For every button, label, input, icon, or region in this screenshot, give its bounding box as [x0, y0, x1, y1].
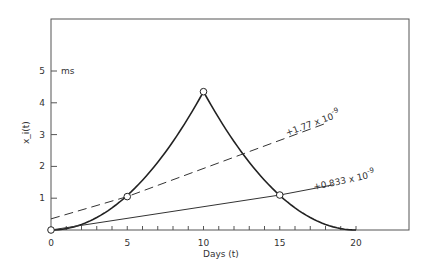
x-tick-label: 10: [198, 238, 210, 248]
dashed-line: [51, 123, 326, 218]
y-tick-label: 1: [39, 193, 45, 203]
y-tick-label: 2: [39, 161, 45, 171]
y-tick-label: 5: [39, 66, 45, 76]
svg-text:+1.77 x 10-9: +1.77 x 10-9: [283, 106, 341, 138]
marker-circle: [48, 227, 55, 234]
x-tick-label: 0: [48, 238, 54, 248]
marker-circle: [124, 193, 131, 200]
marker-circle: [200, 88, 207, 95]
x-tick-label: 20: [350, 238, 362, 248]
y-tick-label: 3: [39, 130, 45, 140]
y-axis-label: x_i(t): [21, 121, 31, 144]
x-axis-label: Days (t): [203, 249, 239, 259]
chart: 05101520 12345 ms Days (t) x_i(t) +1.77 …: [0, 0, 429, 270]
y-unit-label: ms: [61, 66, 75, 76]
x-tick-label: 5: [124, 238, 130, 248]
x-tick-label: 15: [274, 238, 285, 248]
annotation-dashed: +1.77 x 10-9: [283, 106, 341, 138]
annotation-solid: +0.833 x 10-9: [312, 166, 376, 192]
thin-line: [51, 185, 333, 230]
plot-frame: [51, 19, 409, 230]
y-tick-label: 4: [39, 98, 45, 108]
main-curve: [51, 92, 356, 230]
x-axis-ticks: 05101520: [48, 226, 362, 248]
series-group: [51, 92, 356, 230]
svg-text:+0.833 x 10-9: +0.833 x 10-9: [312, 166, 376, 192]
y-axis-ticks: 12345: [39, 66, 57, 203]
marker-circle: [276, 192, 283, 199]
